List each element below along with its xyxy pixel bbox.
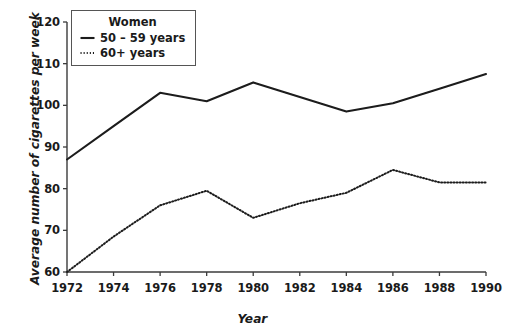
x-tick-label: 1972 [51,281,83,295]
chart-container: 60708090100110120 1972197419761978198019… [0,0,505,335]
series-line-50-59-years [67,74,486,159]
x-tick-label: 1976 [144,281,176,295]
x-axis-title: Year [0,312,505,326]
legend-item-60-plus-years: 60+ years [80,46,185,60]
legend-item-label: 60+ years [100,46,165,60]
x-tick-label: 1982 [284,281,316,295]
x-tick-label: 1990 [470,281,502,295]
chart-legend: Women 50 – 59 years 60+ years [71,10,196,66]
series-line-60-plus-years [67,170,486,272]
legend-item-50-59-years: 50 – 59 years [80,31,185,45]
x-tick-label: 1986 [377,281,409,295]
legend-solid-line-icon [80,33,95,43]
x-tick-label: 1984 [331,281,363,295]
legend-title: Women [80,15,185,29]
legend-dotted-line-icon [80,48,95,58]
y-axis-title: Average number of cigarettes per week [28,25,42,285]
x-tick-label: 1978 [191,281,223,295]
legend-item-label: 50 – 59 years [100,31,185,45]
x-tick-label: 1980 [237,281,269,295]
x-tick-label: 1974 [98,281,130,295]
x-tick-label: 1988 [424,281,456,295]
